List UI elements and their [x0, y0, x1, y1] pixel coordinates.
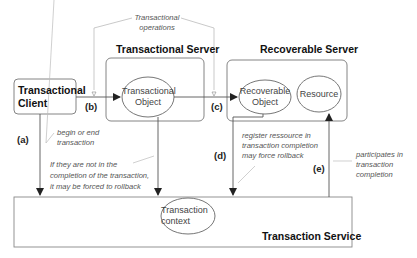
- operations-pointer-c: [212, 92, 216, 96]
- label-line: Object: [122, 97, 174, 108]
- annotation-line: begin or end: [57, 128, 99, 138]
- pointer-begin-end: [46, 0, 54, 143]
- annotation-begin-end: begin or end transaction: [57, 128, 99, 148]
- label-line: Client: [18, 97, 86, 110]
- annotation-line: participates in: [356, 150, 403, 160]
- edge-tag-c: (c): [211, 101, 223, 112]
- annotation-line: completion of the transaction,: [50, 170, 149, 181]
- annotation-line: may force rollback: [242, 151, 318, 161]
- edge-tag-b: (b): [85, 101, 97, 112]
- label-line: Recoverable: [239, 86, 291, 97]
- edge-tag-e: (e): [313, 163, 325, 174]
- annotation-transactional-operations: Transactional operations: [131, 13, 183, 33]
- annotation-register-resource: register ressource in transaction comple…: [242, 131, 318, 161]
- transaction-service-title: Transaction Service: [262, 230, 361, 242]
- annotation-line: transaction completion: [242, 141, 318, 151]
- label-line: Transactional: [122, 86, 174, 97]
- annotation-participates: participates in transaction completion: [356, 150, 403, 180]
- annotation-line: it may be forced to rollback: [50, 181, 149, 192]
- label-line: context: [161, 216, 215, 227]
- annotation-line: If they are not in the: [50, 159, 149, 170]
- pointer-begin-end: [46, 133, 54, 143]
- annotation-line: operations: [131, 23, 183, 33]
- recoverable-server-title: Recoverable Server: [260, 43, 358, 55]
- transactional-object-label: Transactional Object: [122, 86, 174, 108]
- edge-tag-d: (d): [214, 150, 226, 161]
- annotation-forced-rollback: If they are not in the completion of the…: [50, 159, 149, 192]
- label-line: Transactional: [18, 84, 86, 97]
- operations-pointer-b: [92, 92, 96, 96]
- transactional-server-title: Transactional Server: [116, 43, 219, 55]
- edge-tag-a: (a): [17, 134, 29, 145]
- annotation-line: Transactional: [131, 13, 183, 23]
- transaction-context-label: Transaction context: [161, 205, 215, 227]
- pointer-register: [238, 166, 255, 183]
- annotation-line: completion: [356, 170, 403, 180]
- resource-label: Resource: [297, 89, 341, 100]
- annotation-line: register ressource in: [242, 131, 318, 141]
- label-line: Object: [239, 97, 291, 108]
- annotation-line: transaction: [356, 160, 403, 170]
- label-line: Transaction: [161, 205, 215, 216]
- recoverable-object-label: Recoverable Object: [239, 86, 291, 108]
- annotation-line: transaction: [57, 138, 99, 148]
- transactional-client-label: Transactional Client: [18, 84, 86, 110]
